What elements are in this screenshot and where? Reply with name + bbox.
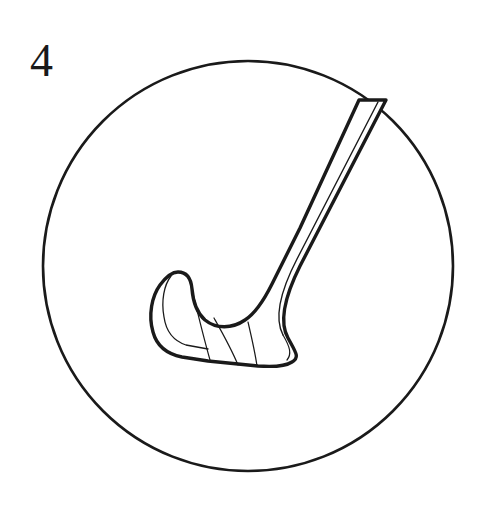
coloring-page: 4: [0, 0, 486, 506]
page-number-label: 4: [30, 38, 53, 84]
paper-background: [0, 0, 486, 506]
artboard: [0, 0, 486, 506]
